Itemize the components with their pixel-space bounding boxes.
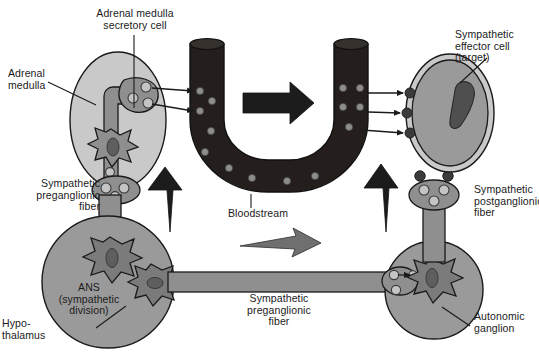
synaptic-knob-left bbox=[415, 171, 425, 181]
synaptic-vesicle-upper bbox=[106, 168, 115, 177]
sympathetic-effector-cell bbox=[406, 54, 494, 172]
vessel-opening-right bbox=[334, 39, 368, 50]
sympathetic-preganglionic-fiber-bottom bbox=[168, 272, 402, 292]
vessel-opening-left bbox=[190, 39, 224, 50]
diagram-canvas: Adrenal medulla secretory cell Adrenal m… bbox=[0, 0, 539, 356]
ans-neuron-nucleus-lower bbox=[147, 278, 163, 289]
preganglionic-terminal-in-ganglion bbox=[382, 267, 418, 295]
secretory-cell-terminal bbox=[119, 78, 158, 113]
ans-neuron-nucleus-upper bbox=[106, 249, 118, 268]
postganglionic-nucleus bbox=[426, 269, 438, 288]
secretory-cell-nucleus bbox=[107, 138, 119, 156]
effector-cell-cytoplasm bbox=[412, 60, 488, 166]
diagram-illustration bbox=[0, 0, 539, 356]
